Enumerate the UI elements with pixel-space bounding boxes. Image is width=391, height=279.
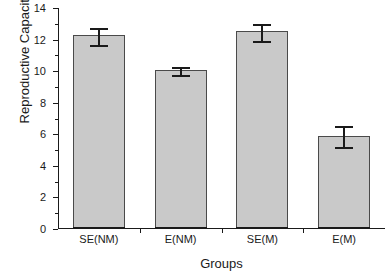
y-tick-minor (55, 182, 58, 183)
error-bar-cap-lower (90, 45, 108, 47)
y-tick-major (53, 134, 58, 135)
error-bar-cap-upper (172, 67, 190, 69)
x-tick-label: E(M) (332, 234, 356, 245)
bar-base (73, 227, 125, 229)
y-tick-major (53, 229, 58, 230)
y-tick-label: 0 (40, 224, 46, 235)
y-tick-minor (55, 119, 58, 120)
y-tick-major (53, 166, 58, 167)
error-bar-stem (343, 126, 345, 147)
y-tick-label: 6 (40, 129, 46, 140)
bar (155, 70, 207, 228)
bar (73, 35, 125, 228)
error-bar-stem (98, 28, 100, 45)
error-bar-cap-lower (335, 147, 353, 149)
bar-base (318, 227, 370, 229)
y-tick-major (53, 103, 58, 104)
error-bar-cap-upper (335, 126, 353, 128)
x-tick-label: SE(NM) (79, 234, 118, 245)
bar (236, 31, 288, 228)
y-axis-title: Reproductive Capacity (17, 0, 33, 158)
y-tick-minor (55, 87, 58, 88)
x-tick-label: SE(M) (247, 234, 278, 245)
y-axis-line (58, 8, 59, 229)
y-tick-major (53, 8, 58, 9)
y-tick-minor (55, 55, 58, 56)
error-bar-cap-lower (172, 75, 190, 77)
y-tick-label: 12 (34, 34, 46, 45)
x-tick-label: E(NM) (165, 234, 197, 245)
y-tick-minor (55, 150, 58, 151)
y-tick-minor (55, 24, 58, 25)
x-tick (140, 229, 141, 233)
error-bar-stem (261, 24, 263, 41)
y-tick-major (53, 40, 58, 41)
y-tick-label: 14 (34, 3, 46, 14)
y-tick-label: 8 (40, 97, 46, 108)
y-tick-label: 2 (40, 192, 46, 203)
x-axis-title: Groups (58, 256, 385, 271)
y-tick-minor (55, 213, 58, 214)
error-bar-cap-upper (90, 28, 108, 30)
bar-base (236, 227, 288, 229)
y-tick-major (53, 71, 58, 72)
error-bar-cap-upper (253, 24, 271, 26)
y-tick-label: 10 (34, 66, 46, 77)
error-bar-cap-lower (253, 41, 271, 43)
bar-chart-figure: Reproductive Capacity 02468101214 SE(NM)… (0, 0, 391, 279)
bar (318, 136, 370, 228)
x-tick (222, 229, 223, 233)
x-tick (303, 229, 304, 233)
y-tick-major (53, 197, 58, 198)
plot-area: 02468101214 (58, 8, 385, 229)
y-tick-label: 4 (40, 160, 46, 171)
bar-base (155, 227, 207, 229)
